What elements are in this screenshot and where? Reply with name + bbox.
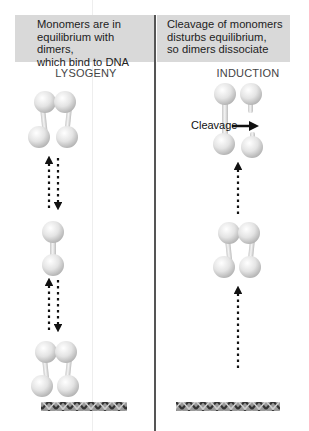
lysogeny-monomer (42, 221, 64, 276)
induction-dna-helix (176, 402, 280, 411)
lysogeny-dna-helix (41, 402, 127, 411)
cleavage-label: Cleavage (191, 119, 237, 131)
equilibrium-arrows-2 (49, 280, 58, 330)
lysogeny-dimer-top (28, 91, 78, 148)
lysogeny-dimer-bound (31, 341, 79, 397)
repressor-diagram (0, 0, 309, 431)
equilibrium-arrows-1 (49, 158, 58, 208)
induction-dimer (213, 222, 261, 278)
